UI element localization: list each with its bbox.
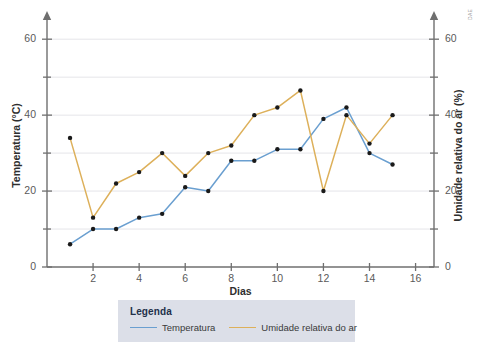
data-point-marker — [344, 105, 348, 109]
data-point-marker — [183, 174, 187, 178]
data-point-marker — [344, 113, 348, 117]
line-chart-plot: 02040600204060246810121416 Temperatura (… — [0, 0, 483, 295]
data-point-marker — [206, 151, 210, 155]
y2-tick-label: 60 — [445, 32, 457, 44]
data-point-marker — [114, 181, 118, 185]
data-point-marker — [390, 113, 394, 117]
legend-color-swatch — [229, 327, 256, 328]
data-series — [68, 88, 395, 246]
data-point-marker — [275, 105, 279, 109]
legend-entries: TemperaturaUmidade relativa do ar — [130, 322, 355, 333]
credit-label: DAE — [467, 8, 473, 20]
data-point-marker — [321, 189, 325, 193]
data-point-marker — [367, 151, 371, 155]
y-axis-title: Temperatura (°C) — [10, 103, 22, 188]
x-tick-label: 6 — [182, 272, 188, 284]
data-point-marker — [160, 212, 164, 216]
x-tick-label: 12 — [318, 272, 330, 284]
y-tick-label: 60 — [24, 32, 36, 44]
data-point-marker — [206, 189, 210, 193]
legend-entry: Umidade relativa do ar — [229, 322, 357, 333]
credit-mark: DAE — [467, 8, 473, 20]
data-point-marker — [137, 215, 141, 219]
x-tick-label: 8 — [228, 272, 234, 284]
x-tick-label: 4 — [136, 272, 142, 284]
x-tick-label: 10 — [272, 272, 284, 284]
data-point-marker — [321, 117, 325, 121]
chart-figure: 02040600204060246810121416 Temperatura (… — [0, 0, 483, 351]
data-point-marker — [137, 170, 141, 174]
data-point-marker — [114, 227, 118, 231]
series-line-1 — [70, 108, 393, 245]
legend-color-swatch — [130, 327, 157, 328]
data-point-marker — [298, 88, 302, 92]
data-point-marker — [252, 113, 256, 117]
data-point-marker — [68, 136, 72, 140]
legend-title: Legenda — [130, 306, 355, 317]
y-tick-label: 40 — [24, 108, 36, 120]
data-point-marker — [68, 242, 72, 246]
legend-entry-label: Temperatura — [162, 322, 215, 333]
y2-tick-label: 0 — [445, 260, 451, 272]
data-point-marker — [91, 227, 95, 231]
x-tick-label: 16 — [410, 272, 422, 284]
data-point-marker — [390, 162, 394, 166]
axis-tick-labels: 02040600204060246810121416 — [24, 32, 457, 284]
data-point-marker — [252, 158, 256, 162]
legend: Legenda TemperaturaUmidade relativa do a… — [118, 300, 355, 342]
data-point-marker — [91, 215, 95, 219]
data-point-marker — [298, 147, 302, 151]
series-line-2 — [70, 90, 393, 217]
data-point-marker — [160, 151, 164, 155]
data-point-marker — [229, 143, 233, 147]
x-axis-title: Dias — [229, 285, 251, 295]
data-point-marker — [367, 141, 371, 145]
data-point-marker — [275, 147, 279, 151]
axis-ticks — [42, 39, 439, 271]
x-tick-label: 14 — [364, 272, 376, 284]
x-tick-label: 2 — [90, 272, 96, 284]
axis-titles: Temperatura (°C)Umidade relativa do ar (… — [10, 90, 464, 295]
y-tick-label: 20 — [24, 184, 36, 196]
y-tick-label: 0 — [30, 260, 36, 272]
legend-entry-label: Umidade relativa do ar — [261, 322, 357, 333]
legend-entry: Temperatura — [130, 322, 215, 333]
data-point-marker — [183, 185, 187, 189]
data-point-marker — [229, 158, 233, 162]
y2-axis-title: Umidade relativa do ar (%) — [452, 90, 464, 222]
